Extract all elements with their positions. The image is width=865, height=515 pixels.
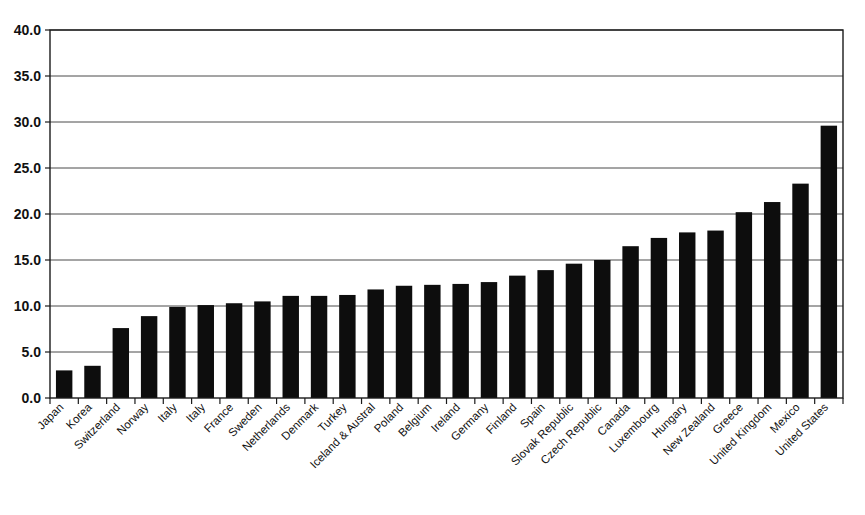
bar[interactable]	[792, 184, 808, 398]
bar[interactable]	[764, 202, 780, 398]
bar[interactable]	[736, 212, 752, 398]
bar[interactable]	[169, 307, 185, 398]
bar[interactable]	[594, 260, 610, 398]
bars-group	[56, 126, 837, 398]
y-axis-tick-label: 35.0	[14, 68, 41, 84]
bar[interactable]	[821, 126, 837, 398]
bar[interactable]	[509, 276, 525, 398]
y-axis-ticks: 0.05.010.015.020.025.030.035.040.0	[14, 22, 50, 406]
x-axis-labels: JapanKoreaSwitzerlandNorwayItalyItalyFra…	[35, 401, 831, 471]
y-axis-tick-label: 30.0	[14, 114, 41, 130]
x-axis-tick-label: New Zealand	[661, 401, 717, 457]
x-axis-tick-label: Italy	[155, 401, 179, 425]
bar[interactable]	[707, 231, 723, 398]
bar[interactable]	[113, 328, 129, 398]
bar[interactable]	[651, 238, 667, 398]
bar[interactable]	[254, 301, 270, 398]
y-axis-tick-label: 40.0	[14, 22, 41, 38]
x-axis-tick-label: Finland	[484, 401, 519, 436]
bar[interactable]	[424, 285, 440, 398]
y-axis-tick-label: 5.0	[22, 344, 42, 360]
bar[interactable]	[56, 370, 72, 398]
bar[interactable]	[226, 303, 242, 398]
gridlines	[50, 30, 843, 352]
bar[interactable]	[537, 270, 553, 398]
bar[interactable]	[339, 295, 355, 398]
y-axis-tick-label: 25.0	[14, 160, 41, 176]
bar[interactable]	[396, 286, 412, 398]
y-axis-tick-label: 20.0	[14, 206, 41, 222]
bar[interactable]	[622, 246, 638, 398]
bar[interactable]	[481, 282, 497, 398]
y-axis-tick-label: 0.0	[22, 390, 42, 406]
bar[interactable]	[283, 296, 299, 398]
bar[interactable]	[367, 289, 383, 398]
chart-canvas: 0.05.010.015.020.025.030.035.040.0JapanK…	[0, 0, 865, 515]
x-axis-tick-label: Norway	[114, 401, 150, 437]
bar[interactable]	[84, 366, 100, 398]
bar[interactable]	[452, 284, 468, 398]
y-axis-tick-label: 15.0	[14, 252, 41, 268]
y-axis-tick-label: 10.0	[14, 298, 41, 314]
bar-chart: 0.05.010.015.020.025.030.035.040.0JapanK…	[0, 0, 865, 515]
bar[interactable]	[311, 296, 327, 398]
x-axis-tick-label: Italy	[184, 401, 208, 425]
bar[interactable]	[198, 305, 214, 398]
bar[interactable]	[679, 232, 695, 398]
bar[interactable]	[566, 264, 582, 398]
bar[interactable]	[141, 316, 157, 398]
